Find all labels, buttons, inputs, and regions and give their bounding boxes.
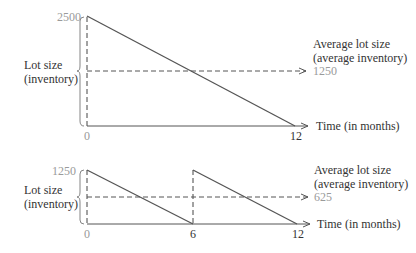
- top-avg-label-line1: Average lot size: [313, 37, 390, 51]
- top-ylabel-line1: Lot size: [24, 58, 62, 72]
- bottom-avg-value: 625: [314, 190, 332, 204]
- bottom-avg-label-line1: Average lot size: [314, 163, 391, 177]
- top-chart: [77, 16, 308, 126]
- bottom-brace: [77, 170, 84, 224]
- bottom-ylabel-line2: (inventory): [24, 197, 78, 211]
- top-xlabel: Time (in months): [316, 119, 400, 133]
- bottom-ylabel-line1: Lot size: [24, 183, 62, 197]
- top-x12-label: 12: [290, 129, 302, 143]
- bottom-x0-label: 0: [84, 227, 90, 241]
- top-x0-label: 0: [84, 129, 90, 143]
- bottom-avg-label-line2: (average inventory): [314, 177, 408, 191]
- top-brace: [77, 17, 84, 126]
- bottom-chart: [77, 170, 310, 224]
- top-avg-value: 1250: [313, 64, 337, 78]
- bottom-x12-label: 12: [292, 227, 304, 241]
- top-avg-label-line2: (average inventory): [313, 51, 407, 65]
- top-y-max-label: 2500: [57, 10, 81, 24]
- bottom-y-max-label: 1250: [52, 164, 76, 178]
- bottom-x6-label: 6: [190, 227, 196, 241]
- top-ylabel-line2: (inventory): [24, 72, 78, 86]
- bottom-xlabel: Time (in months): [317, 217, 401, 231]
